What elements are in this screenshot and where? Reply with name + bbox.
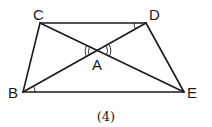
label-c: C	[33, 6, 44, 23]
angle-mark-d	[134, 23, 136, 29]
figure-caption: (4)	[97, 109, 115, 124]
segment-ce	[40, 23, 184, 92]
label-b: B	[8, 84, 18, 101]
angle-mark-a-right	[106, 45, 110, 57]
label-a: A	[92, 56, 102, 73]
geometry-diagram: C D B E A (4)	[0, 0, 212, 127]
segment-de	[146, 23, 184, 92]
label-d: D	[149, 6, 160, 23]
label-e: E	[187, 84, 197, 101]
segment-db	[23, 23, 146, 92]
angle-mark-b	[34, 86, 36, 92]
segment-cb	[23, 23, 40, 92]
